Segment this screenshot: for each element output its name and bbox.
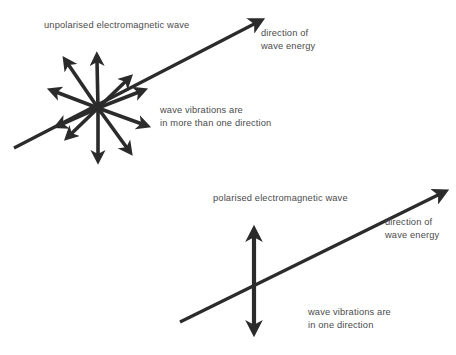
top-wave-vibrations-label: wave vibrations are in more than one dir… xyxy=(160,104,271,129)
unpolarised-panel xyxy=(14,23,256,155)
polarised-wave-title-label: polarised electromagnetic wave xyxy=(213,192,348,205)
ray-up xyxy=(97,61,98,108)
bottom-wave-vibrations-label: wave vibrations are in one direction xyxy=(308,306,391,331)
polarisation-diagram: unpolarised electromagnetic wave directi… xyxy=(0,0,456,355)
unpolarised-wave-title-label: unpolarised electromagnetic wave xyxy=(44,19,189,32)
ray-left-down xyxy=(62,108,98,124)
wave-diagram-canvas xyxy=(0,0,456,355)
unpolarised-vibration-starburst xyxy=(56,61,142,155)
top-direction-of-wave-energy-label: direction of wave energy xyxy=(261,27,315,52)
bottom-direction-of-wave-energy-label: direction of wave energy xyxy=(385,216,439,241)
top-propagation-arrow xyxy=(14,23,256,148)
bottom-propagation-arrow xyxy=(180,194,440,322)
